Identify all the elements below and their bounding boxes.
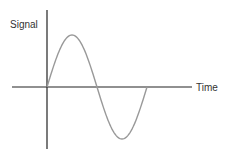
x-axis-label: Time — [196, 82, 218, 93]
signal-time-diagram: Signal Time — [0, 0, 230, 154]
y-axis-label: Signal — [10, 19, 38, 30]
